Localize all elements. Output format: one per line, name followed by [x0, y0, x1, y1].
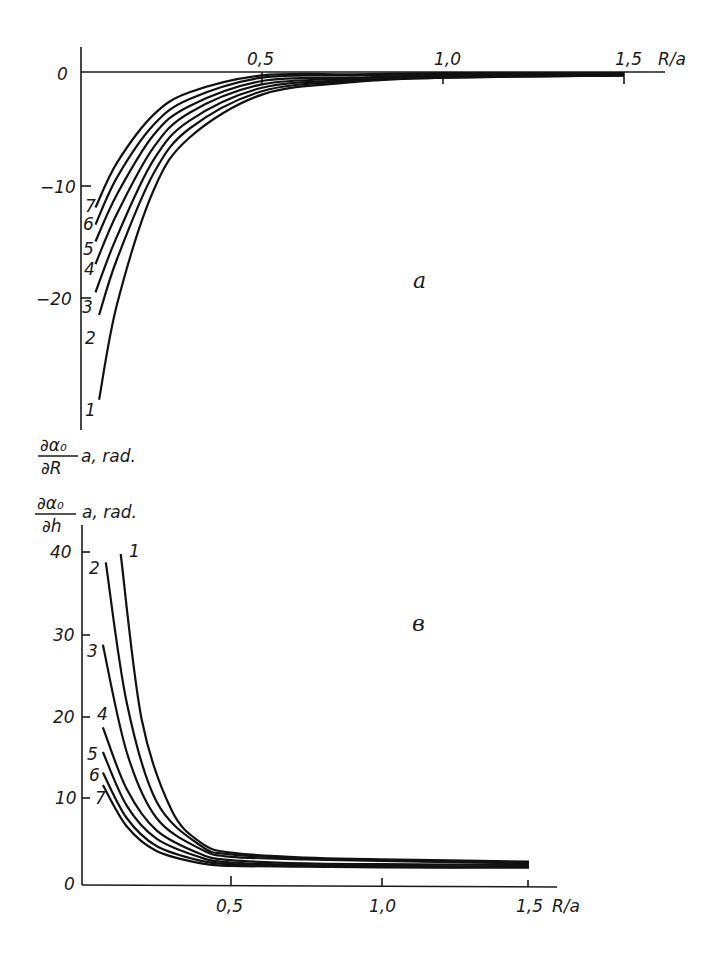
curve-label-3: 3: [87, 641, 98, 661]
curve-label-5: 5: [87, 744, 98, 764]
svg-text:a, rad.: a, rad.: [82, 502, 137, 522]
curve-label-6: 6: [83, 214, 94, 234]
top-y-tick-label: −10: [40, 177, 76, 197]
bottom-x-tick-label: 1,0: [369, 896, 396, 916]
curve-1: [121, 554, 529, 862]
bottom-x-axis-label: R/a: [552, 896, 580, 916]
bottom-x-axis: [82, 885, 557, 887]
panel-a: 0 −10 −20 0,5 1,0 1,5 R/a 7 6 5 4 3 2 1 …: [36, 47, 686, 478]
top-x-axis-label: R/a: [658, 49, 686, 69]
bottom-y-tick-label: 10: [55, 788, 77, 808]
top-curves: [96, 73, 625, 400]
panel-b: ∂α₀ ∂h a, rad. 0 10 20 30 40 0,5 1,0 1,5…: [35, 493, 580, 916]
bottom-y-tick-label: 20: [53, 707, 75, 727]
top-x-tick-label: 0,5: [247, 49, 274, 69]
curve-label-5: 5: [83, 239, 94, 259]
curve-5: [103, 752, 529, 867]
bottom-x-tick-label: 0,5: [216, 896, 243, 916]
curve-label-1: 1: [85, 400, 96, 420]
bottom-y-tick-label: 40: [50, 542, 72, 562]
curve-label-3: 3: [82, 297, 93, 317]
bottom-curves: [103, 554, 529, 868]
top-y-axis-label: ∂α₀ ∂R a, rad.: [38, 435, 136, 478]
curve-1: [99, 75, 624, 399]
curve-3: [103, 645, 529, 864]
curve-label-4: 4: [97, 704, 108, 724]
curve-2: [106, 562, 529, 862]
top-x-tick-label: 1,5: [615, 49, 642, 69]
curve-4: [96, 74, 625, 264]
top-y-tick-label: −20: [36, 289, 72, 309]
curve-6: [96, 73, 625, 225]
top-x-tick-label: 1,0: [434, 49, 461, 69]
svg-text:∂R: ∂R: [41, 458, 62, 478]
bottom-x-tick-label: 1,5: [516, 896, 543, 916]
panel-a-label: a: [413, 268, 426, 293]
panel-b-label: в: [412, 611, 425, 636]
curve-label-7: 7: [85, 196, 96, 216]
svg-text:a, rad.: a, rad.: [81, 446, 136, 466]
curve-label-2: 2: [89, 558, 100, 578]
svg-text:∂α₀: ∂α₀: [37, 493, 64, 513]
curve-label-2: 2: [85, 328, 96, 348]
curve-label-6: 6: [89, 765, 100, 785]
curve-6: [103, 773, 529, 868]
svg-text:∂h: ∂h: [42, 516, 62, 536]
curve-3: [96, 75, 625, 292]
svg-text:∂α₀: ∂α₀: [40, 435, 67, 455]
curve-label-1: 1: [129, 541, 140, 561]
figure: 0 −10 −20 0,5 1,0 1,5 R/a 7 6 5 4 3 2 1 …: [0, 0, 723, 958]
bottom-y-tick-label: 0: [64, 874, 75, 894]
curve-label-7: 7: [95, 788, 106, 808]
curve-label-4: 4: [84, 259, 95, 279]
top-y-tick-label: 0: [57, 64, 68, 84]
bottom-y-tick-label: 30: [53, 625, 75, 645]
bottom-y-axis-label: ∂α₀ ∂h a, rad.: [35, 493, 137, 536]
